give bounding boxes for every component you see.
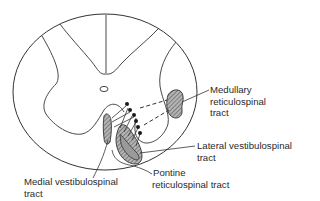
label-lateral-vestibulospinal-tract: Lateral vestibulospinal tract bbox=[197, 140, 292, 163]
label-line: reticulospinal bbox=[210, 96, 266, 108]
label-pontine-reticulospinal-tract: Pontine reticulospinal tract bbox=[153, 167, 229, 190]
label-medullary-reticulospinal-tract: Medullary reticulospinal tract bbox=[210, 84, 266, 119]
medullary-reticulospinal-tract bbox=[167, 90, 183, 118]
label-line: tract bbox=[197, 152, 292, 164]
label-line: Medial vestibulospinal bbox=[24, 176, 118, 188]
label-line: Medullary bbox=[210, 84, 266, 96]
label-line: Lateral vestibulospinal bbox=[197, 140, 292, 152]
label-line: tract bbox=[24, 188, 118, 200]
medial-vestibulospinal-tract bbox=[103, 114, 111, 144]
label-medial-vestibulospinal-tract: Medial vestibulospinal tract bbox=[24, 176, 118, 199]
label-line: reticulospinal tract bbox=[152, 179, 229, 191]
central-canal bbox=[100, 86, 108, 91]
label-line: Pontine bbox=[153, 167, 229, 179]
label-line: tract bbox=[210, 107, 266, 119]
